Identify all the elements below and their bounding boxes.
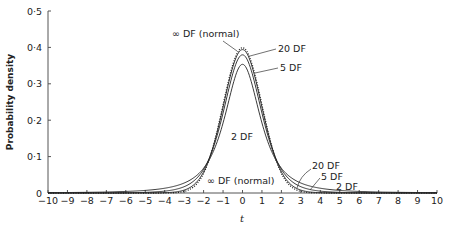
x-tick-label: −7 (99, 195, 113, 206)
x-tick-label: −1 (216, 195, 230, 206)
annotation-normal-top: ∞ DF (normal) (172, 28, 239, 39)
y-tick-label: 0·2 (27, 115, 42, 126)
x-tick-label: 9 (415, 195, 421, 206)
leader-line (223, 41, 237, 51)
curve-inf-df (48, 48, 437, 193)
y-tick-label: 0·3 (27, 78, 42, 89)
x-axis-label: t (240, 213, 245, 224)
x-tick-label: −9 (60, 195, 74, 206)
y-axis-label: Probability density (5, 54, 15, 150)
x-tick-label: −5 (138, 195, 152, 206)
x-tick-label: 6 (356, 195, 362, 206)
x-tick-label: 1 (259, 195, 265, 206)
x-tick-label: 10 (431, 195, 443, 206)
leader-line (255, 68, 278, 73)
annotation-2df-tail: 2 DF (336, 181, 358, 192)
x-tick-label: −2 (197, 195, 211, 206)
x-tick-label: 3 (298, 195, 304, 206)
annotation-20df-top: 20 DF (278, 43, 306, 54)
y-ticks: 00·10·20·30·40·5 (27, 6, 51, 199)
x-tick-label: −4 (158, 195, 172, 206)
x-tick-label: 7 (376, 195, 382, 206)
t-distribution-chart: 00·10·20·30·40·5 −10−9−8−7−6−5−4−3−2−101… (0, 0, 452, 232)
y-tick-label: 0·4 (27, 42, 42, 53)
x-tick-label: −8 (80, 195, 94, 206)
curve-5-df (48, 55, 437, 193)
annotations: ∞ DF (normal) 20 DF 5 DF 2 DF ∞ DF (norm… (172, 28, 358, 192)
curves (48, 48, 437, 193)
x-tick-label: −6 (119, 195, 133, 206)
annotation-20df-tail: 20 DF (312, 160, 340, 171)
x-tick-label: 0 (239, 195, 245, 206)
curve-2-df (48, 64, 437, 192)
annotation-2df-mid: 2 DF (231, 131, 253, 142)
leader-line (297, 169, 311, 188)
y-tick-label: 0·5 (27, 6, 42, 17)
x-tick-label: −10 (38, 195, 58, 206)
x-tick-label: 5 (337, 195, 343, 206)
curve-20-df (48, 50, 437, 193)
leader-line (250, 49, 276, 56)
y-tick-label: 0·1 (27, 151, 42, 162)
x-tick-label: 4 (317, 195, 323, 206)
annotation-normal-base: ∞ DF (normal) (207, 175, 274, 186)
x-tick-label: −3 (177, 195, 191, 206)
x-tick-label: 8 (395, 195, 401, 206)
x-tick-label: 2 (278, 195, 284, 206)
annotation-5df-top: 5 DF (280, 62, 302, 73)
